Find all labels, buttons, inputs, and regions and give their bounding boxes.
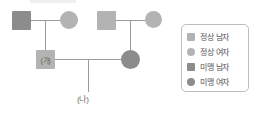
legend-label-normal-male: 정상 남자 <box>200 31 229 42</box>
legend-label-affected-female: 미맹 여자 <box>200 76 229 87</box>
legend-label-affected-male: 미맹 남자 <box>200 61 229 72</box>
scan-artifact <box>30 0 76 3</box>
legend-swatch-normal-female-circle <box>187 48 195 56</box>
legend-swatch-affected-female-circle <box>187 78 195 86</box>
legend-item-normal-female: 정상 여자 <box>187 44 248 59</box>
legend-swatch-affected-male-square <box>187 63 195 71</box>
gen1-right-father-normal-male-square <box>97 11 116 30</box>
gen3-descent-line <box>88 59 89 92</box>
legend-box: 정상 남자 정상 여자 미맹 남자 미맹 여자 <box>181 24 249 92</box>
gen2-mother-affected-female-circle <box>121 50 140 69</box>
legend-item-affected-male: 미맹 남자 <box>187 59 248 74</box>
gen1-left-descent-line <box>45 20 46 53</box>
gen1-left-mother-normal-female-circle <box>60 11 78 29</box>
gen2-father-ga-label: (가) <box>36 50 55 69</box>
legend-swatch-normal-male-square <box>187 33 195 41</box>
gen1-right-descent-line <box>130 20 131 53</box>
gen3-child-na-label: (나) <box>77 93 89 104</box>
legend-item-normal-male: 정상 남자 <box>187 29 248 44</box>
gen1-left-father-affected-male-square <box>12 11 31 30</box>
legend-label-normal-female: 정상 여자 <box>200 46 229 57</box>
legend-item-affected-female: 미맹 여자 <box>187 74 248 89</box>
pedigree-figure: (가) (나) 정상 남자 정상 여자 미맹 남자 미맹 여자 <box>0 0 253 115</box>
gen1-right-mother-normal-female-circle <box>145 11 162 28</box>
